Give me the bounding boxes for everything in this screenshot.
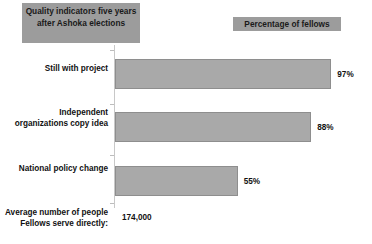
bar-chart: Quality indicators five years after Asho…: [0, 0, 372, 244]
footer-annotation-value: 174,000: [122, 213, 152, 222]
category-label: National policy change: [8, 164, 108, 175]
axis-tick: [110, 50, 114, 51]
category-label: Independent organizations copy idea: [8, 108, 108, 129]
bar-still-with-project: [115, 59, 331, 89]
axis-tick: [110, 155, 114, 156]
axis-tick: [110, 104, 114, 105]
chart-title-box: Quality indicators five years after Asho…: [22, 3, 140, 43]
bar-value-label: 88%: [317, 123, 333, 132]
bar-independent-organizations-copy-idea: [115, 112, 311, 142]
bar-national-policy-change: [115, 166, 238, 196]
legend-box: Percentage of fellows: [233, 17, 341, 31]
axis-tick: [110, 203, 114, 204]
footer-annotation-label: Average number of people Fellows serve d…: [4, 208, 108, 229]
bar-value-label: 97%: [337, 70, 353, 79]
bar-value-label: 55%: [244, 177, 260, 186]
category-label: Still with project: [8, 64, 108, 75]
